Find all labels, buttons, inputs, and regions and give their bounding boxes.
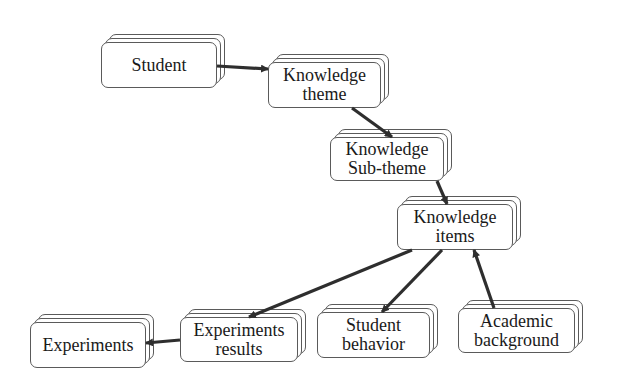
node-knowledge-items: Knowledge items (397, 196, 521, 250)
node-box-front: Knowledge items (397, 204, 513, 250)
node-academic-background: Academic background (458, 300, 583, 353)
node-box-front: Knowledge theme (268, 62, 381, 108)
node-box-front: Experiments (30, 322, 146, 368)
arrow-knowledge-items-to-student-behavior (382, 250, 442, 312)
node-box-front: Experiments results (180, 317, 298, 362)
node-label: Knowledge Sub-theme (331, 138, 443, 180)
node-knowledge-theme: Knowledge theme (268, 54, 389, 108)
node-knowledge-subtheme: Knowledge Sub-theme (330, 129, 452, 181)
node-box-front: Academic background (458, 308, 575, 353)
diagram-canvas: StudentKnowledge themeKnowledge Sub-them… (0, 0, 618, 386)
node-label: Experiments results (181, 318, 297, 361)
node-box-front: Student behavior (317, 312, 430, 358)
node-box-front: Student (101, 42, 217, 88)
node-label: Student (102, 43, 216, 87)
node-student-behavior: Student behavior (317, 304, 438, 358)
node-student: Student (101, 34, 225, 88)
node-label: Knowledge items (398, 205, 512, 249)
node-label: Student behavior (318, 313, 429, 357)
node-label: Academic background (459, 309, 574, 352)
node-label: Knowledge theme (269, 63, 380, 107)
node-label: Experiments (31, 323, 145, 367)
node-box-front: Knowledge Sub-theme (330, 137, 444, 181)
node-experiments: Experiments (30, 314, 154, 368)
node-experiments-results: Experiments results (180, 309, 306, 362)
